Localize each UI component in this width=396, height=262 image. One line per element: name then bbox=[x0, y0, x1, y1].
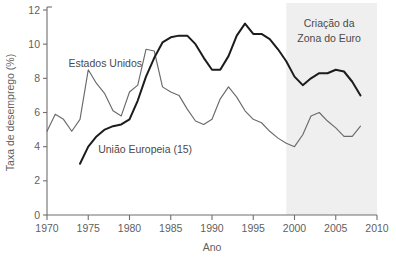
y-tick-label-2: 2 bbox=[34, 174, 40, 186]
y-tick-label-0: 0 bbox=[34, 209, 40, 221]
euro-zone-band-text-line1: Criação da bbox=[304, 17, 355, 29]
y-tick-label-6: 6 bbox=[34, 106, 40, 118]
x-tick-label-2005: 2005 bbox=[324, 222, 348, 234]
y-tick-label-12: 12 bbox=[28, 4, 40, 16]
euro-zone-band-text-line2: Zona do Euro bbox=[297, 32, 361, 44]
series-label-estados-unidos: Estados Unidos bbox=[68, 57, 142, 69]
y-axis-title: Taxa de desemprego (%) bbox=[4, 54, 16, 171]
y-tick-label-4: 4 bbox=[34, 140, 40, 152]
x-tick-label-1980: 1980 bbox=[118, 222, 142, 234]
x-tick-label-2010: 2010 bbox=[365, 222, 389, 234]
x-tick-label-1970: 1970 bbox=[35, 222, 59, 234]
y-tick-label-10: 10 bbox=[28, 38, 40, 50]
x-tick-label-1975: 1975 bbox=[77, 222, 101, 234]
x-tick-label-2000: 2000 bbox=[283, 222, 307, 234]
x-tick-label-1985: 1985 bbox=[159, 222, 183, 234]
y-tick-label-8: 8 bbox=[34, 72, 40, 84]
series-label-uniao-europeia: União Europeia (15) bbox=[98, 143, 192, 155]
x-axis-title: Ano bbox=[203, 241, 222, 253]
x-tick-label-1995: 1995 bbox=[242, 222, 266, 234]
chart-canvas: 0246810121970197519801985199019952000200… bbox=[0, 0, 396, 262]
unemployment-rate-chart: 0246810121970197519801985199019952000200… bbox=[0, 0, 396, 262]
x-tick-label-1990: 1990 bbox=[200, 222, 224, 234]
